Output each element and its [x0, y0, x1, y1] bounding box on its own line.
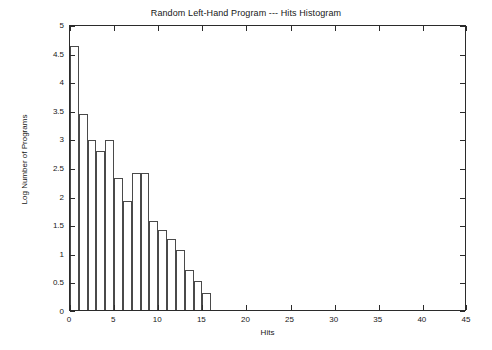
histogram-bar — [167, 239, 176, 311]
y-axis-tick-mark — [460, 140, 465, 141]
y-axis-tick-mark — [460, 26, 465, 27]
x-axis-tick-mark — [246, 26, 247, 31]
x-axis-tick-label: 40 — [417, 315, 426, 324]
histogram-bars — [70, 26, 465, 310]
y-axis-tick-mark — [70, 311, 75, 312]
x-axis-tick-label: 15 — [197, 315, 206, 324]
x-axis-tick-mark — [70, 26, 71, 31]
x-axis-tick-label: 0 — [67, 315, 71, 324]
y-axis-tick-label: 0 — [60, 307, 64, 316]
x-axis-tick-mark — [70, 305, 71, 310]
y-axis-label: Log Number of Programs — [20, 90, 29, 230]
y-axis-tick-mark — [70, 255, 75, 256]
x-axis-tick-mark — [202, 305, 203, 310]
y-axis-tick-label: 0.5 — [53, 278, 64, 287]
x-axis-tick-mark — [423, 26, 424, 31]
y-axis-tick-label: 4.5 — [53, 49, 64, 58]
x-axis-tick-label: 35 — [373, 315, 382, 324]
y-axis-tick-label: 1.5 — [53, 221, 64, 230]
x-axis-tick-mark — [335, 26, 336, 31]
y-axis-tick-label: 3 — [60, 135, 64, 144]
y-axis-tick-mark — [70, 198, 75, 199]
x-axis-tick-mark — [114, 305, 115, 310]
x-axis-tick-mark — [335, 305, 336, 310]
histogram-bar — [185, 270, 194, 310]
x-axis-tick-mark — [202, 26, 203, 31]
x-axis-tick-mark — [291, 26, 292, 31]
x-axis-label: Hits — [69, 328, 466, 337]
x-axis-tick-label: 30 — [329, 315, 338, 324]
x-axis-tick-mark — [423, 305, 424, 310]
y-axis-tick-mark — [460, 283, 465, 284]
x-axis-tick-mark — [379, 26, 380, 31]
chart-title: Random Left-Hand Program --- Hits Histog… — [0, 8, 492, 18]
x-axis-tick-label: 25 — [285, 315, 294, 324]
histogram-bar — [158, 230, 167, 310]
histogram-bar — [149, 221, 158, 310]
x-axis-tick-label: 5 — [111, 315, 115, 324]
chart-figure: Random Left-Hand Program --- Hits Histog… — [0, 0, 492, 350]
x-axis-tick-mark — [158, 26, 159, 31]
histogram-bar — [70, 46, 79, 310]
x-axis-tick-mark — [466, 26, 467, 31]
y-axis-tick-label: 2.5 — [53, 164, 64, 173]
y-axis-tick-mark — [460, 112, 465, 113]
y-axis-tick-mark — [460, 198, 465, 199]
histogram-bar — [123, 201, 132, 310]
plot-area — [69, 25, 466, 311]
y-axis-tick-label: 1 — [60, 249, 64, 258]
y-axis-tick-mark — [70, 169, 75, 170]
histogram-bar — [88, 140, 97, 310]
y-axis-tick-mark — [460, 55, 465, 56]
y-axis-tick-label: 4 — [60, 78, 64, 87]
y-axis-tick-label: 3.5 — [53, 106, 64, 115]
histogram-bar — [132, 173, 141, 310]
y-axis-tick-mark — [70, 283, 75, 284]
x-axis-tick-mark — [466, 305, 467, 310]
x-axis-tick-mark — [246, 305, 247, 310]
y-axis-tick-mark — [460, 83, 465, 84]
x-axis-tick-label: 10 — [153, 315, 162, 324]
y-axis-tick-mark — [460, 311, 465, 312]
histogram-bar — [194, 281, 203, 310]
y-axis-tick-mark — [460, 169, 465, 170]
x-axis-tick-label: 20 — [241, 315, 250, 324]
histogram-bar — [176, 250, 185, 310]
y-axis-tick-mark — [70, 140, 75, 141]
y-axis-tick-mark — [70, 226, 75, 227]
y-axis-tick-mark — [460, 226, 465, 227]
x-axis-tick-label: 45 — [462, 315, 471, 324]
y-axis-tick-mark — [70, 55, 75, 56]
y-axis-tick-label: 5 — [60, 21, 64, 30]
y-axis-tick-mark — [70, 112, 75, 113]
x-axis-tick-mark — [158, 305, 159, 310]
x-axis-tick-mark — [379, 305, 380, 310]
x-axis-tick-mark — [114, 26, 115, 31]
y-axis-tick-mark — [70, 83, 75, 84]
x-axis-tick-mark — [291, 305, 292, 310]
histogram-bar — [202, 293, 211, 310]
y-axis-tick-mark — [460, 255, 465, 256]
histogram-bar — [114, 178, 123, 310]
histogram-bar — [105, 140, 114, 310]
histogram-bar — [79, 114, 88, 310]
y-axis-tick-label: 2 — [60, 192, 64, 201]
histogram-bar — [141, 173, 150, 310]
histogram-bar — [96, 151, 105, 310]
